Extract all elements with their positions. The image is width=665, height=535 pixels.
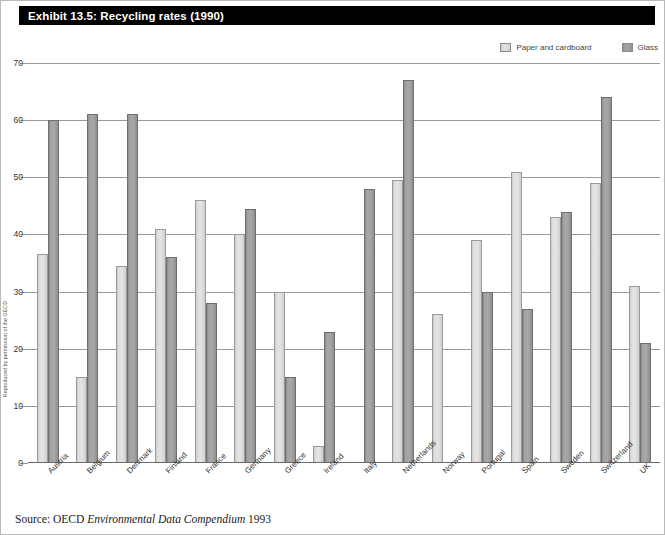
bar-paper — [313, 446, 324, 463]
bar-group — [186, 63, 226, 463]
legend-label-glass: Glass — [638, 43, 658, 52]
bar-paper — [471, 240, 482, 463]
bar-group — [621, 63, 661, 463]
x-label-cell: Portugal — [463, 467, 503, 527]
bar-group — [68, 63, 108, 463]
bar-glass — [403, 80, 414, 463]
source-prefix: Source: OECD — [15, 513, 87, 525]
bar-paper — [155, 229, 166, 463]
x-label-cell: Sweden — [542, 467, 582, 527]
side-credit-text: Reproduced by permission of the OECD — [2, 301, 8, 397]
bar-glass — [601, 97, 612, 463]
bar-paper — [76, 377, 87, 463]
bar-glass — [522, 309, 533, 463]
bar-glass — [324, 332, 335, 463]
glass-swatch-icon — [622, 43, 633, 52]
bar-paper — [590, 183, 601, 463]
x-label-cell: Italy — [344, 467, 384, 527]
bar-glass — [482, 292, 493, 463]
bar-group — [581, 63, 621, 463]
bar-glass — [640, 343, 651, 463]
chart-plot-area: 010203040506070 — [28, 63, 660, 463]
bar-group — [107, 63, 147, 463]
bar-paper — [550, 217, 561, 463]
source-suffix: 1993 — [245, 513, 271, 525]
bar-group — [502, 63, 542, 463]
chart-legend: Paper and cardboard Glass — [500, 43, 658, 52]
bar-glass — [285, 377, 296, 463]
bar-paper — [37, 254, 48, 463]
legend-label-paper: Paper and cardboard — [516, 43, 591, 52]
exhibit-title-bar: Exhibit 13.5: Recycling rates (1990) — [19, 6, 655, 25]
x-tick-label: UK — [638, 461, 652, 475]
bar-glass — [206, 303, 217, 463]
y-tick-label: 30 — [14, 287, 23, 297]
bar-paper — [274, 292, 285, 463]
y-tick-label: 40 — [14, 229, 23, 239]
bar-glass — [87, 114, 98, 463]
paper-swatch-icon — [500, 43, 511, 52]
y-tick-label: 50 — [14, 172, 23, 182]
bar-paper — [234, 234, 245, 463]
bar-paper — [195, 200, 206, 463]
bar-glass — [561, 212, 572, 463]
bar-paper — [116, 266, 127, 463]
bar-group — [265, 63, 305, 463]
bar-group — [384, 63, 424, 463]
bar-glass — [166, 257, 177, 463]
y-tick-label: 20 — [14, 344, 23, 354]
x-label-cell: Switzerland — [581, 467, 621, 527]
bar-glass — [364, 189, 375, 463]
bar-glass — [245, 209, 256, 463]
source-title: Environmental Data Compendium — [87, 513, 245, 525]
bar-glass — [127, 114, 138, 463]
y-tick-label: 10 — [14, 401, 23, 411]
x-label-cell: Norway — [423, 467, 463, 527]
bar-groups — [28, 63, 660, 463]
bar-glass — [48, 120, 59, 463]
bar-group — [423, 63, 463, 463]
bar-group — [344, 63, 384, 463]
x-label-cell: Ireland — [305, 467, 345, 527]
legend-item-glass: Glass — [622, 43, 658, 52]
page-title: Exhibit 13.5: Recycling rates (1990) — [19, 10, 224, 22]
bar-group — [305, 63, 345, 463]
x-label-cell: UK — [621, 467, 661, 527]
x-label-cell: Netherlands — [384, 467, 424, 527]
bar-paper — [392, 180, 403, 463]
exhibit-frame: Exhibit 13.5: Recycling rates (1990) Pap… — [0, 0, 665, 535]
bar-paper — [629, 286, 640, 463]
bar-group — [28, 63, 68, 463]
source-note: Source: OECD Environmental Data Compendi… — [15, 513, 271, 525]
y-tick-label: 60 — [14, 115, 23, 125]
legend-item-paper: Paper and cardboard — [500, 43, 591, 52]
bar-group — [147, 63, 187, 463]
bar-group — [226, 63, 266, 463]
bar-group — [542, 63, 582, 463]
bar-group — [463, 63, 503, 463]
bar-paper — [511, 172, 522, 463]
x-label-cell: Spain — [502, 467, 542, 527]
y-tick-label: 0 — [18, 458, 23, 468]
y-tick-label: 70 — [14, 58, 23, 68]
